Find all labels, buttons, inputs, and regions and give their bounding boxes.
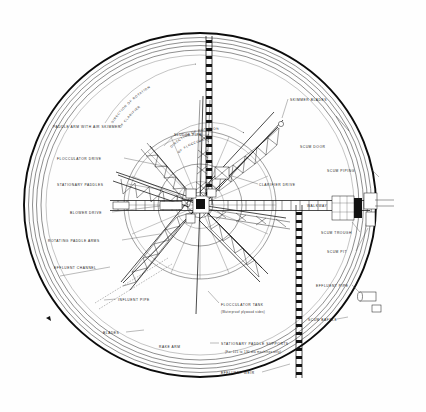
truss-ne-d10 [266,138,268,155]
spoke-12 [171,205,200,273]
label-stationary-paddles: STATIONARY PADDLES [57,183,104,187]
walkway-platform-west [113,202,129,209]
truss-ne-t5 [257,138,268,147]
influent-pipe-edge-a [95,258,168,303]
rung-s-14 [296,324,302,327]
rung-s-7 [296,268,302,271]
leader-rotating-paddle-arms [122,234,160,240]
truss-sw-b4 [136,268,147,282]
sludge-pipe-riser-south [296,205,302,378]
spoke-11 [200,205,229,273]
clarifier-plan-drawing: DIRECTION OF ROTATION OF CLARIFIER DIREC… [0,0,426,412]
rung-s-0 [296,212,302,215]
rung-n-8 [206,104,212,107]
truss-ne-t3 [233,156,245,165]
truss-nw-d7 [155,155,158,167]
truss-nw-d4 [164,177,176,178]
rung-s-8 [296,276,302,279]
truss-se-t3 [243,248,255,260]
label-scum-door: SCUM DOOR [300,145,326,149]
hub-bearing-nw [186,189,196,198]
leader-flocculator-tank [208,291,219,303]
rung-s-6 [296,260,302,263]
label-effluent-pipe: EFFLUENT PIPE [316,284,349,288]
truss-sw-d9 [132,272,136,282]
label-influent-pipe: INFLUENT PIPE [118,298,150,302]
south-riser-rungs [296,212,302,375]
truss-ne-t6 [268,128,279,138]
rung-n-15 [206,160,212,163]
scum-pit-block [354,198,362,218]
label-rotating-paddle-arms: ROTATING PADDLE ARMS [48,239,100,243]
rung-n-13 [206,144,212,147]
label-direction-rotation-clarifier-line1: DIRECTION OF ROTATION [110,85,151,124]
walkway-bridge [110,201,370,211]
label-paddle-arm-with-air-skimmer: PADDLE ARM WITH AIR SKIMMER [53,125,121,129]
rung-s-18 [296,356,302,359]
rung-n-17 [206,176,212,179]
rung-s-3 [296,236,302,239]
bottom-callouts: FLOCCULATOR TANK (Waterproof plywood sid… [208,291,290,375]
label-effluent-weir: EFFLUENT WEIR [221,371,255,375]
leader-scum-trough [352,222,360,232]
paddle-arm-s [196,205,200,314]
truss-ne-d9 [257,147,266,155]
label-effluent-channel: EFFLUENT CHANNEL [54,266,96,270]
scum-trough-box [332,196,354,220]
truss-ne-d11 [268,138,277,145]
truss-nw-d2 [173,188,185,189]
rung-s-13 [296,316,302,319]
label-flocculator-tank-note: (Waterproof plywood sides) [221,310,265,314]
hub-bearing-ne [207,189,216,197]
truss-ne-d7 [245,156,255,164]
blower-drive-housing [160,202,182,210]
label-skimmer-blades: SKIMMER BLADES [290,98,327,102]
scum-pit-outlet [366,212,375,226]
rung-n-9 [206,112,212,115]
rung-n-4 [206,72,212,75]
truss-e-chord-b [208,216,290,229]
label-flocculator-tank: FLOCCULATOR TANK [221,303,264,307]
clarifier-drive-unit [215,167,229,179]
label-scum-trough: SCUM TROUGH [321,231,352,235]
label-scum-baffle: SCUM BAFFLE [308,318,337,322]
scum-pit-chamber [364,193,377,209]
rung-s-10 [296,292,302,295]
rung-s-16 [296,340,302,343]
truss-w-d9 [121,179,123,194]
scum-trough-assembly [332,193,394,226]
leader-skimmer-blades [282,99,288,118]
label-blower-drive: BLOWER DRIVE [70,211,102,215]
label-clarifier-drive: CLARIFIER DRIVE [259,183,296,187]
hub-bearing-sw [186,214,195,223]
truss-e-x4 [236,215,246,222]
truss-e-x7 [276,219,286,227]
scum-door-detail [336,116,349,131]
rung-n-3 [206,64,212,67]
truss-w-d5 [149,187,151,202]
leader-scum-baffle [337,317,348,319]
truss-ne-b5 [266,145,277,155]
truss-se-d5 [235,248,243,253]
truss-sw-d1 [177,217,180,226]
rung-n-2 [206,56,212,59]
rung-s-2 [296,228,302,231]
truss-nw-d8 [146,155,158,156]
rung-s-15 [296,332,302,335]
truss-nw-d5 [164,166,167,178]
truss-e-chord-a [208,209,290,222]
rung-s-19 [296,364,302,367]
paddle-arm-n [200,96,203,205]
truss-se-t2 [231,236,243,248]
truss-nw-chord-b [141,149,188,205]
rung-s-1 [296,220,302,223]
truss-se-chord-b [199,220,260,282]
label-walkway: WALKWAY [307,204,327,208]
truss-se-t1 [219,224,231,236]
label-scum-piping: SCUM PIPING [327,169,355,173]
rung-s-4 [296,244,302,247]
truss-sw-d5 [154,244,158,254]
skimmer-blade-node-ne [278,121,283,126]
effluent-pipe-outlet [358,292,377,301]
rung-s-17 [296,348,302,351]
